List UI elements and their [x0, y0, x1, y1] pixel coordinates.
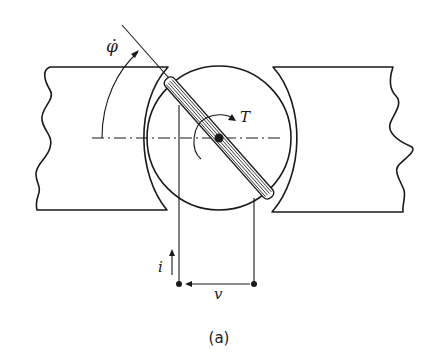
- arrowhead-icon: [228, 114, 236, 121]
- rotor-center-dot: [215, 134, 224, 143]
- current-arrow: [169, 249, 175, 275]
- arrowhead-icon: [131, 50, 139, 58]
- arrowhead-icon: [169, 249, 175, 256]
- terminal-left: [176, 281, 182, 287]
- terminal-right: [251, 281, 257, 287]
- voltage-label: v: [214, 285, 223, 303]
- arrowhead-icon: [185, 281, 192, 287]
- angular-velocity-label: φ̇: [106, 36, 118, 56]
- torque-label: T: [240, 108, 251, 126]
- angle-arc: [102, 50, 139, 138]
- coil-axis-line: [122, 25, 175, 85]
- right-pole-piece: [272, 67, 413, 212]
- current-label: i: [158, 258, 163, 276]
- figure-caption: (a): [209, 329, 230, 347]
- machine-diagram: φ̇ T i v (a): [0, 0, 441, 360]
